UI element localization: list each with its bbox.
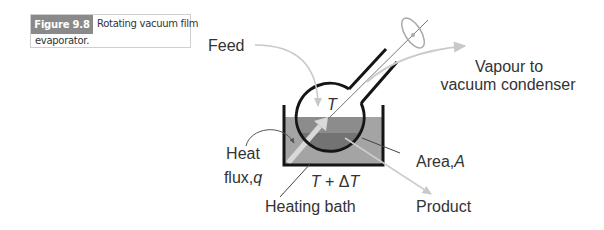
area-label: Area,A [416, 153, 465, 170]
heat-label-line1: Heat [226, 145, 260, 162]
area-variable: A [453, 153, 465, 170]
bath-temp-var2: T [349, 173, 360, 190]
flask-temperature-label: T [327, 96, 338, 113]
heat-label-line2: flux,q [224, 169, 262, 186]
vapour-label-line2: vacuum condenser [440, 76, 576, 93]
rotating-evaporator-diagram: Feed Vapour to vacuum condenser T Heat f… [0, 0, 604, 230]
wheel-hub [411, 33, 415, 37]
heat-flux-prefix: flux, [224, 169, 253, 186]
heating-bath-label: Heating bath [265, 198, 356, 215]
bath-temperature-label: T + ΔT [311, 173, 361, 190]
feed-arrow [255, 45, 318, 106]
area-prefix: Area, [416, 153, 454, 170]
heat-flux-variable: q [253, 169, 262, 186]
heating-bath-leader [280, 163, 311, 197]
vapour-label-line1: Vapour to [475, 58, 543, 75]
bath-temp-operator: + Δ [321, 173, 350, 190]
feed-label: Feed [208, 37, 244, 54]
product-label: Product [416, 198, 472, 215]
